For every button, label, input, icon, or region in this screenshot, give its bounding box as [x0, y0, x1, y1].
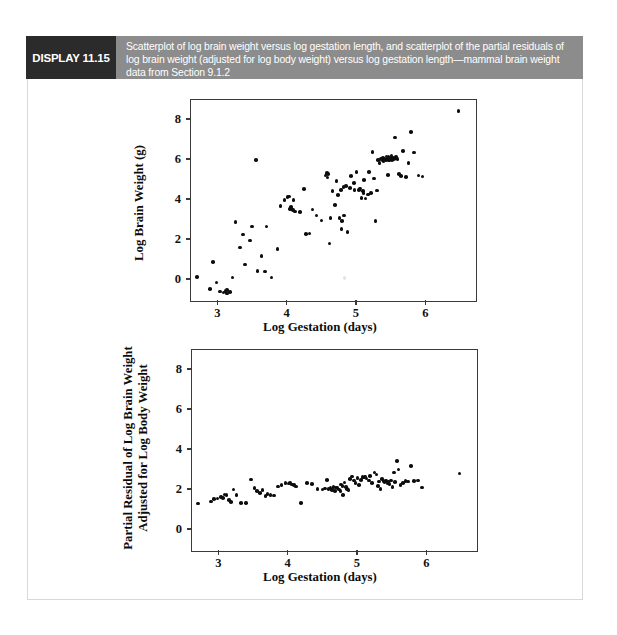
data-point: [250, 225, 254, 229]
data-point: [310, 482, 314, 486]
data-point: [225, 493, 229, 497]
data-point: [305, 481, 309, 485]
data-point: [229, 500, 233, 504]
y-axis-tick-label: 0: [160, 522, 182, 537]
data-point: [270, 276, 274, 280]
data-point: [370, 481, 374, 485]
y-axis-tick: [186, 118, 191, 119]
data-point: [316, 487, 320, 491]
data-point: [231, 276, 235, 280]
data-point: [234, 220, 238, 224]
data-point: [457, 109, 461, 113]
x-axis-tick: [218, 550, 219, 555]
data-point: [258, 491, 262, 495]
data-point: [241, 233, 245, 237]
data-point: [228, 290, 232, 294]
data-point: [326, 172, 330, 176]
data-point: [232, 488, 236, 492]
data-point: [311, 208, 315, 212]
data-point: [401, 149, 405, 153]
scan-speck: [343, 276, 346, 280]
data-point: [346, 230, 350, 234]
display-header-band: DISPLAY 11.15 Scatterplot of log brain w…: [26, 36, 583, 79]
y-axis-tick-label: 4: [160, 442, 182, 457]
data-point: [243, 263, 247, 267]
x-axis-tick: [217, 300, 218, 305]
data-point: [458, 472, 462, 476]
data-point: [350, 475, 354, 479]
data-point: [302, 187, 306, 191]
x-axis-tick: [426, 550, 427, 555]
x-axis-tick-label: 6: [423, 556, 429, 571]
y-axis-tick-label: 6: [159, 152, 181, 167]
data-point: [263, 270, 267, 274]
data-point: [320, 219, 324, 223]
data-point: [364, 197, 368, 201]
data-point: [280, 483, 284, 487]
y-axis-title-bottom-line1: Partial Residual of Log Brain Weight: [121, 342, 136, 554]
data-point: [386, 173, 390, 177]
data-point: [341, 493, 345, 497]
data-point: [326, 176, 330, 180]
display-number-tag: DISPLAY 11.15: [26, 36, 116, 79]
x-axis-tick: [286, 300, 287, 305]
y-axis-tick: [187, 368, 192, 369]
y-axis-tick: [187, 528, 192, 529]
x-axis-tick-label: 5: [354, 556, 360, 571]
data-point: [407, 161, 411, 165]
data-point: [409, 464, 413, 468]
y-axis-tick: [187, 488, 192, 489]
data-point: [421, 175, 425, 179]
data-point: [355, 170, 359, 174]
data-point: [299, 501, 303, 505]
x-axis-tick: [356, 550, 357, 555]
y-axis-tick: [186, 278, 191, 279]
data-point: [379, 487, 383, 491]
x-axis-tick: [425, 300, 426, 305]
data-point: [349, 174, 353, 178]
data-point: [374, 219, 378, 223]
data-point: [371, 150, 375, 154]
data-point: [211, 260, 215, 264]
data-point: [406, 480, 410, 484]
data-point: [254, 158, 258, 162]
data-point: [331, 189, 335, 193]
x-axis-tick-label: 4: [284, 306, 290, 321]
data-point: [276, 247, 280, 251]
y-axis-tick-label: 6: [160, 402, 182, 417]
data-point: [389, 479, 393, 483]
data-point: [348, 186, 352, 190]
data-point: [208, 287, 212, 291]
y-axis-title-bottom-line2: Adjusted for Log Body Weight: [136, 342, 151, 554]
x-axis-tick-label: 3: [215, 556, 221, 571]
data-point: [315, 214, 319, 218]
data-point: [396, 157, 400, 161]
data-point: [308, 232, 312, 236]
y-axis-tick: [186, 158, 191, 159]
data-point: [293, 210, 297, 214]
data-point: [260, 254, 264, 258]
data-point: [393, 480, 397, 484]
x-axis-tick-label: 6: [422, 306, 428, 321]
data-point: [272, 494, 276, 498]
data-point: [221, 496, 225, 500]
y-axis-title-top: Log Brain Weight (g): [132, 103, 147, 303]
data-point: [360, 196, 364, 200]
x-axis-title-top: Log Gestation (days): [120, 320, 520, 335]
data-point: [292, 198, 296, 202]
data-point: [372, 177, 376, 181]
y-axis-tick: [187, 448, 192, 449]
x-axis-tick-label: 4: [285, 556, 291, 571]
data-point: [353, 188, 357, 192]
data-point: [342, 214, 346, 218]
data-point: [238, 246, 242, 250]
data-points-bottom: [192, 350, 477, 551]
data-point: [357, 483, 361, 487]
data-point: [392, 471, 396, 475]
data-point: [261, 488, 265, 492]
data-point: [393, 136, 397, 140]
data-point: [335, 179, 339, 183]
x-axis-tick: [355, 300, 356, 305]
data-point: [368, 474, 372, 478]
data-point: [362, 191, 366, 195]
